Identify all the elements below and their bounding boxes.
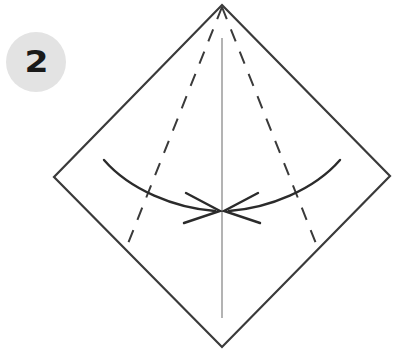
- diagram-canvas: 2: [0, 0, 403, 363]
- step-number-badge: 2: [6, 32, 66, 92]
- step-number-label: 2: [25, 47, 48, 77]
